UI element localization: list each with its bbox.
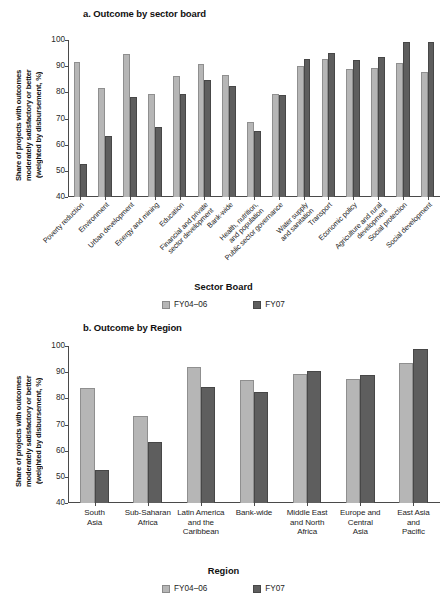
- bar-FY0406-bank-wide[interactable]: [240, 380, 254, 503]
- y-axis-tick-mark: [65, 425, 68, 426]
- bar-group: [222, 40, 236, 197]
- legend-item-FY0406[interactable]: FY04–06: [162, 584, 207, 593]
- bar-FY07-public-sector-governance[interactable]: [279, 95, 286, 197]
- x-axis-tick-mark: [428, 197, 429, 200]
- bar-FY0406-water-supply-and-sanitation[interactable]: [297, 66, 304, 197]
- bar-FY07-urban-development[interactable]: [130, 97, 137, 197]
- x-axis-tick-mark: [353, 197, 354, 200]
- bar-FY0406-transport[interactable]: [322, 59, 329, 197]
- bar-FY0406-bank-wide[interactable]: [222, 75, 229, 197]
- y-axis-tick-mark: [65, 40, 68, 41]
- bar-group: [420, 40, 434, 197]
- bar-group: [148, 40, 162, 197]
- bar-FY07-east-asia-and-pacific[interactable]: [413, 349, 427, 503]
- panel-outcome-by-region: b. Outcome by Region Share of projects w…: [0, 318, 447, 604]
- bar-FY07-poverty-reduction[interactable]: [80, 164, 87, 197]
- legend-swatch-icon: [162, 585, 170, 593]
- bar-FY0406-europe-and-central-asia[interactable]: [346, 379, 360, 503]
- bar-FY0406-middle-east-and-north-africa[interactable]: [293, 374, 307, 503]
- x-axis-tick-mark: [413, 503, 414, 506]
- bar-FY0406-east-asia-and-pacific[interactable]: [399, 363, 413, 503]
- bar-FY0406-agriculture-and-rural-development[interactable]: [371, 68, 378, 197]
- bar-FY07-water-supply-and-sanitation[interactable]: [304, 59, 311, 197]
- panel-b-legend: FY04–06FY07: [0, 584, 447, 593]
- bar-group: [399, 346, 429, 503]
- x-axis-tick-mark: [403, 197, 404, 200]
- panel-a-legend: FY04–06FY07: [0, 300, 447, 309]
- bar-FY0406-education[interactable]: [173, 76, 180, 197]
- bar-FY07-health-nutrition-and-population[interactable]: [254, 131, 261, 197]
- x-axis-tick-mark: [180, 197, 181, 200]
- bar-FY07-economic-policy[interactable]: [353, 60, 360, 197]
- x-axis-tick-mark: [307, 503, 308, 506]
- x-axis-tick-mark: [148, 503, 149, 506]
- bar-group: [197, 40, 211, 197]
- bar-FY0406-energy-and-mining[interactable]: [148, 94, 155, 197]
- y-axis-tick-label: 90: [56, 62, 65, 70]
- panel-b-title: b. Outcome by Region: [83, 322, 182, 333]
- bar-FY07-financial-and-private-sector-development[interactable]: [204, 80, 211, 197]
- bar-FY07-environment[interactable]: [105, 136, 112, 197]
- y-axis-tick-mark: [65, 477, 68, 478]
- bar-FY0406-health-nutrition-and-population[interactable]: [247, 122, 254, 197]
- y-axis-tick-mark: [65, 92, 68, 93]
- bar-FY07-education[interactable]: [180, 94, 187, 197]
- bar-FY07-europe-and-central-asia[interactable]: [360, 375, 374, 503]
- bar-FY07-energy-and-mining[interactable]: [155, 127, 162, 197]
- bar-FY07-middle-east-and-north-africa[interactable]: [307, 371, 321, 503]
- x-axis-tick-mark: [254, 197, 255, 200]
- y-axis-tick-label: 70: [56, 114, 65, 122]
- bar-FY0406-poverty-reduction[interactable]: [74, 62, 81, 197]
- bar-FY0406-economic-policy[interactable]: [346, 69, 353, 197]
- bar-FY0406-latin-america-and-the-caribbean[interactable]: [187, 367, 201, 503]
- x-axis-tick-mark: [229, 197, 230, 200]
- bar-FY07-south-asia[interactable]: [95, 470, 109, 503]
- legend-item-FY0406[interactable]: FY04–06: [162, 300, 207, 309]
- x-axis-tick-mark: [304, 197, 305, 200]
- bar-FY07-agriculture-and-rural-development[interactable]: [378, 57, 385, 197]
- bar-FY07-social-development[interactable]: [428, 42, 435, 197]
- bar-FY07-latin-america-and-the-caribbean[interactable]: [201, 387, 215, 503]
- bar-FY07-transport[interactable]: [328, 53, 335, 197]
- panel-a-title: a. Outcome by sector board: [83, 8, 206, 19]
- y-axis-tick-mark: [65, 503, 68, 504]
- y-axis-tick-label: 100: [51, 36, 65, 44]
- legend-label: FY07: [265, 584, 285, 593]
- bar-group: [296, 40, 310, 197]
- legend-label: FY04–06: [174, 584, 207, 593]
- bar-FY0406-social-development[interactable]: [421, 72, 428, 197]
- x-axis-tick-mark: [279, 197, 280, 200]
- x-axis-tick-mark: [95, 503, 96, 506]
- y-axis-tick-mark: [65, 398, 68, 399]
- bar-group: [272, 40, 286, 197]
- bar-FY0406-financial-and-private-sector-development[interactable]: [198, 64, 205, 197]
- x-axis-tick-mark: [201, 503, 202, 506]
- y-axis-tick-mark: [65, 451, 68, 452]
- bar-group: [346, 40, 360, 197]
- bar-FY07-social-protection[interactable]: [403, 42, 410, 197]
- bar-group: [73, 40, 87, 197]
- bar-FY07-sub-saharan-africa[interactable]: [148, 442, 162, 503]
- x-axis-tick-mark: [378, 197, 379, 200]
- legend-item-FY07[interactable]: FY07: [253, 584, 285, 593]
- y-axis-tick-mark: [65, 145, 68, 146]
- bar-FY0406-social-protection[interactable]: [396, 63, 403, 197]
- bar-group: [292, 346, 322, 503]
- x-axis-category-label: Middle East and North Africa: [281, 508, 334, 537]
- bar-FY0406-south-asia[interactable]: [80, 388, 94, 503]
- bar-group: [98, 40, 112, 197]
- y-axis-tick-label: 40: [56, 193, 65, 201]
- bar-FY0406-sub-saharan-africa[interactable]: [133, 416, 147, 503]
- bar-FY07-bank-wide[interactable]: [229, 86, 236, 197]
- x-axis-tick-mark: [155, 197, 156, 200]
- bar-FY0406-environment[interactable]: [98, 88, 105, 197]
- bar-FY0406-urban-development[interactable]: [123, 54, 130, 197]
- y-axis-tick-mark: [65, 119, 68, 120]
- bar-FY07-bank-wide[interactable]: [254, 392, 268, 503]
- bar-group: [247, 40, 261, 197]
- bar-FY0406-public-sector-governance[interactable]: [272, 94, 279, 197]
- x-axis-category-label: Latin America and the Caribbean: [174, 508, 227, 537]
- legend-item-FY07[interactable]: FY07: [253, 300, 285, 309]
- legend-swatch-icon: [253, 301, 261, 309]
- y-axis-tick-label: 50: [56, 167, 65, 175]
